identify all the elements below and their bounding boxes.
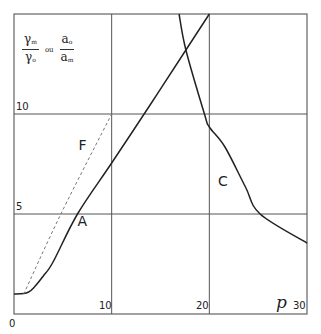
gamma-ratio: γm γo xyxy=(22,33,39,66)
curve-label-c: C xyxy=(218,173,228,189)
series-f-line xyxy=(24,114,112,294)
x-tick-label: 20 xyxy=(196,300,209,311)
a-ratio: ao am xyxy=(60,33,75,66)
curve-label-f: F xyxy=(78,137,86,153)
x-tick-label: 10 xyxy=(99,300,112,311)
x-axis-label: p xyxy=(276,292,287,312)
y-tick-label: 5 xyxy=(16,201,22,212)
series-c-line xyxy=(179,14,307,243)
y-axis-label: γm γo ou ao am xyxy=(22,33,74,66)
x-tick-label: 0 xyxy=(9,318,15,329)
curve-label-a: A xyxy=(77,213,87,229)
y-tick-label: 10 xyxy=(16,101,29,112)
curve-annotations: AFC xyxy=(77,137,228,229)
x-tick-label: 30 xyxy=(293,300,306,311)
connector-text: ou xyxy=(45,46,54,54)
